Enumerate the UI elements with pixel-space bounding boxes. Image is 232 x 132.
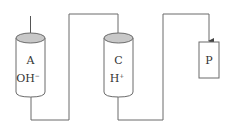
- column-a-label: A: [26, 54, 36, 67]
- diagram-canvas: A OH− C H+ P: [0, 0, 232, 132]
- product-box-p: P: [199, 42, 219, 78]
- column-c-label: C: [114, 54, 122, 67]
- column-a: A OH−: [16, 33, 45, 97]
- product-box-label: P: [205, 54, 213, 67]
- column-c: C H+: [104, 33, 133, 97]
